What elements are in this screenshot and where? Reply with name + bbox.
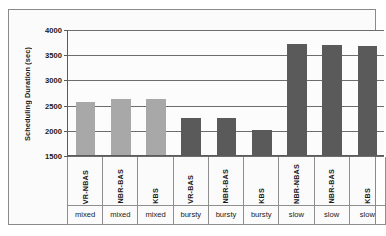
y-axis-title-label: Scheduling Duration (sec)	[23, 47, 32, 141]
group-label-cell: mixed	[138, 205, 173, 224]
category-label-cell: KBS	[350, 157, 385, 205]
category-label: KBS	[151, 188, 160, 204]
category-separator	[315, 30, 316, 155]
category-label-cell: VR-NBAS	[68, 157, 103, 205]
bar-slot	[244, 30, 279, 155]
bar-slot	[174, 30, 209, 155]
category-separator	[350, 30, 351, 155]
plot-area	[67, 30, 384, 156]
bar[interactable]	[322, 45, 342, 155]
category-label: NBR-BAS	[116, 169, 125, 204]
category-label: VR-NBAS	[81, 170, 90, 204]
bar[interactable]	[217, 118, 237, 155]
category-label: KBS	[257, 188, 266, 204]
category-label: NBR-NBAS	[292, 164, 301, 204]
y-axis-title: Scheduling Duration (sec)	[19, 32, 35, 156]
bar[interactable]	[76, 102, 96, 155]
bar-slot	[103, 30, 138, 155]
category-label: KBS	[363, 188, 372, 204]
category-separator	[138, 30, 139, 155]
group-label: slow	[289, 210, 304, 219]
group-label: mixed	[75, 210, 95, 219]
bar[interactable]	[146, 99, 166, 155]
bar[interactable]	[358, 46, 378, 155]
category-label-row: VR-NBASNBR-BASKBSVR-BASNBR-BASKBSNBR-NBA…	[67, 157, 386, 206]
category-separator	[244, 30, 245, 155]
category-label: NBR-BAS	[221, 169, 230, 204]
y-axis-tick-label: 2000	[45, 126, 62, 135]
category-separator	[103, 30, 104, 155]
bar-slot	[350, 30, 385, 155]
category-label-cell: VR-BAS	[174, 157, 209, 205]
group-label-cell: bursty	[244, 205, 279, 224]
group-label: slow	[324, 210, 339, 219]
category-label: NBR-BAS	[327, 169, 336, 204]
category-label-cell: NBR-NBAS	[279, 157, 314, 205]
group-label-cell: slow	[279, 205, 314, 224]
y-axis-tick-label: 1500	[45, 152, 62, 161]
y-axis-tick-labels: 400035003000250020001500	[35, 25, 62, 156]
group-label-cell: mixed	[68, 205, 103, 224]
bar-slot	[209, 30, 244, 155]
category-label-cell: KBS	[244, 157, 279, 205]
category-label: VR-BAS	[186, 175, 195, 204]
category-label-cell: NBR-BAS	[103, 157, 138, 205]
bar[interactable]	[287, 44, 307, 155]
category-separator	[174, 30, 175, 155]
y-axis-tick-label: 4000	[45, 26, 62, 35]
bar-slot	[138, 30, 173, 155]
category-separator	[209, 30, 210, 155]
group-label-row: mixedmixedmixedburstyburstyburstyslowslo…	[67, 205, 386, 225]
bar[interactable]	[181, 118, 201, 155]
y-axis-tick-label: 3000	[45, 76, 62, 85]
bar-slot	[315, 30, 350, 155]
bar[interactable]	[252, 130, 272, 155]
group-label-cell: bursty	[174, 205, 209, 224]
bar-series	[68, 30, 384, 155]
category-label-cell: NBR-BAS	[209, 157, 244, 205]
group-label: mixed	[145, 210, 165, 219]
group-label: bursty	[180, 210, 201, 219]
group-label: bursty	[216, 210, 237, 219]
chart-figure: Scheduling Duration (sec) 40003500300025…	[8, 9, 376, 225]
group-label: mixed	[110, 210, 130, 219]
group-label: slow	[360, 210, 375, 219]
bar-slot	[279, 30, 314, 155]
category-label-cell: NBR-BAS	[315, 157, 350, 205]
group-label: bursty	[251, 210, 272, 219]
y-axis-tick-label: 3500	[45, 51, 62, 60]
group-label-cell: slow	[315, 205, 350, 224]
bar-slot	[68, 30, 103, 155]
y-axis-tick-label: 2500	[45, 101, 62, 110]
bar[interactable]	[111, 99, 131, 155]
group-label-cell: slow	[350, 205, 385, 224]
group-label-cell: bursty	[209, 205, 244, 224]
group-label-cell: mixed	[103, 205, 138, 224]
category-label-cell: KBS	[138, 157, 173, 205]
category-separator	[279, 30, 280, 155]
